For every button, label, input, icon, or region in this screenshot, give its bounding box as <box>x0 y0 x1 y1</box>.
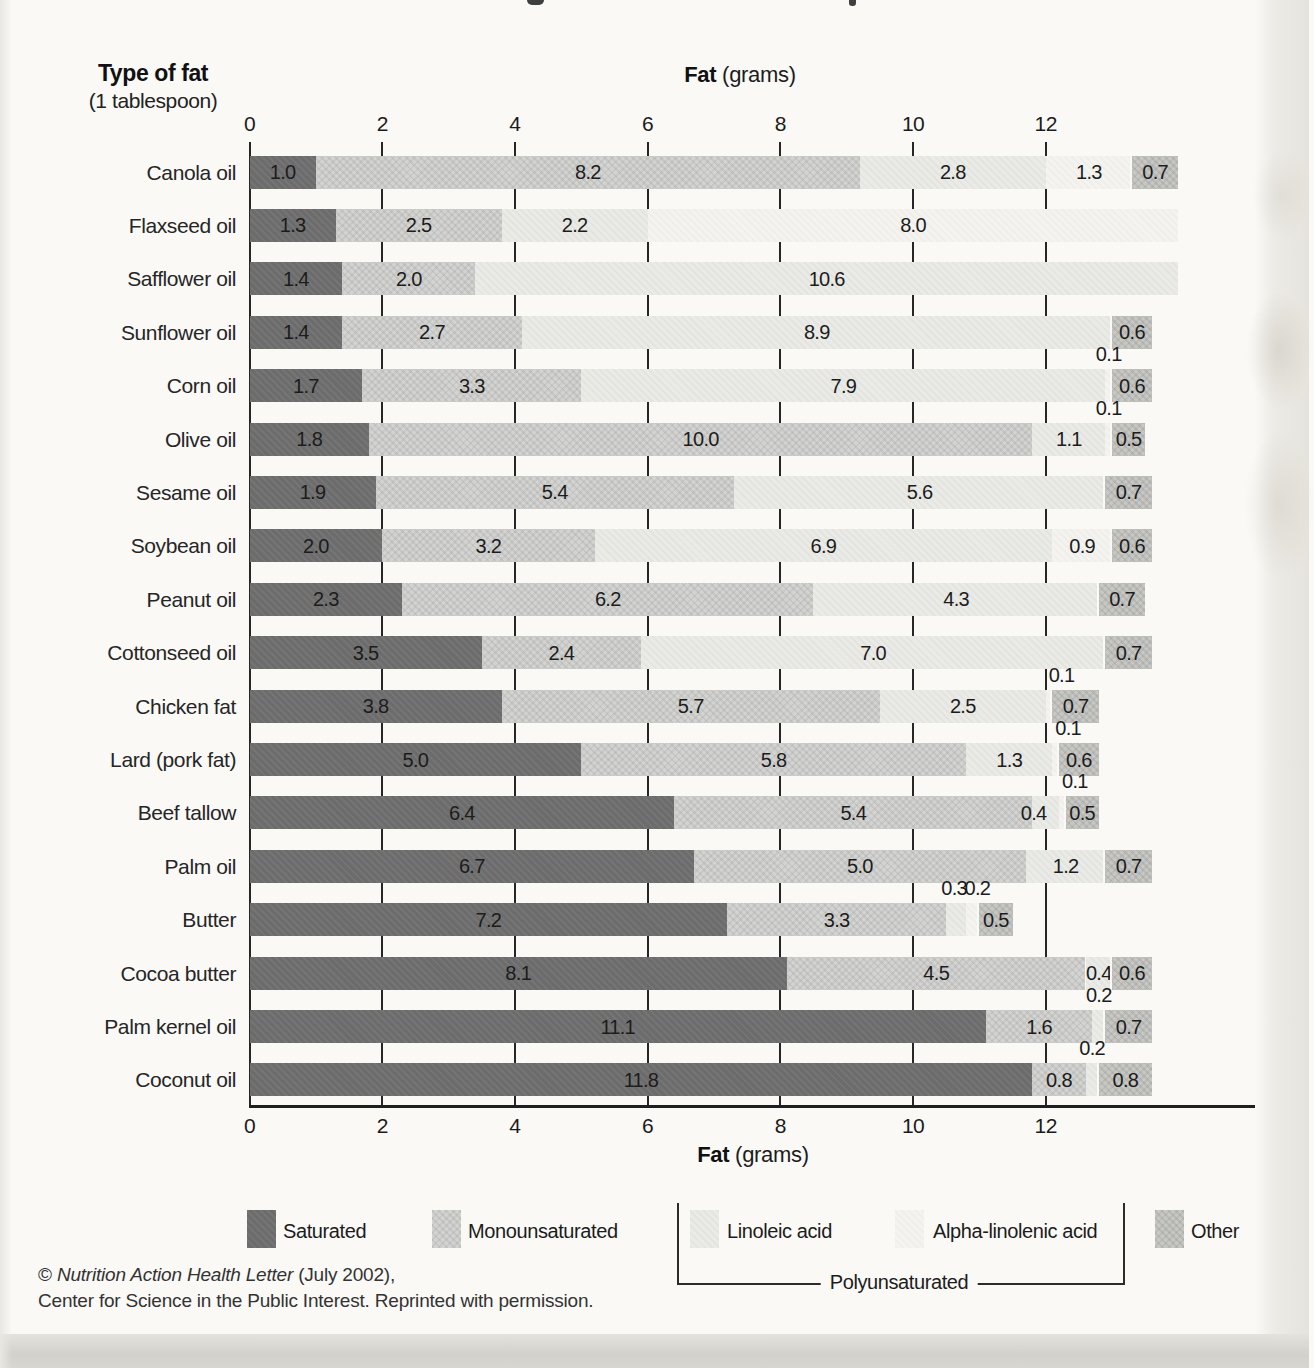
x-axis-title-bottom: Fat (grams) <box>697 1142 809 1168</box>
x-axis-title-bottom-rest: (grams) <box>729 1142 809 1167</box>
copyright-note: © Nutrition Action Health Letter (July 2… <box>38 1262 593 1314</box>
segment-value-label: 5.0 <box>847 855 873 878</box>
segment-value-label-above: 0.1 <box>1062 770 1088 793</box>
segment-value-label: 7.0 <box>860 641 886 664</box>
segment-value-label: 0.4 <box>1086 962 1112 985</box>
category-label: Cocoa butter <box>26 957 236 990</box>
segment-value-label: 6.2 <box>595 588 621 611</box>
segment-value-label-above: 0.1 <box>1096 343 1122 366</box>
legend-swatch-other <box>1155 1210 1184 1248</box>
category-label: Palm oil <box>26 850 236 883</box>
segment-value-label: 8.2 <box>575 161 601 184</box>
segment-value-label: 1.0 <box>270 161 296 184</box>
segment-value-label: 2.8 <box>940 161 966 184</box>
segment-value-label: 6.7 <box>459 855 485 878</box>
segment-value-label: 1.4 <box>283 267 309 290</box>
segment-value-label: 1.4 <box>283 321 309 344</box>
segment-value-label: 3.3 <box>459 374 485 397</box>
bar-segment-ala <box>1046 690 1053 723</box>
legend-label-monounsaturated: Monounsaturated <box>468 1220 618 1243</box>
segment-value-label: 0.9 <box>1069 534 1095 557</box>
category-label: Sunflower oil <box>26 316 236 349</box>
segment-value-label: 3.3 <box>824 908 850 931</box>
segment-value-label: 2.7 <box>419 321 445 344</box>
bar-row: 6.45.40.40.50.1 <box>250 796 1190 829</box>
category-label: Coconut oil <box>26 1063 236 1096</box>
bar-segment-ala <box>966 903 979 936</box>
segment-value-label: 3.8 <box>363 695 389 718</box>
copyright-line2: Center for Science in the Public Interes… <box>38 1288 593 1314</box>
copyright-symbol: © <box>38 1264 57 1285</box>
segment-value-label: 7.9 <box>830 374 856 397</box>
segment-value-label: 5.0 <box>403 748 429 771</box>
bar-segment-la <box>946 903 966 936</box>
bar-row: 6.75.01.20.7 <box>250 850 1190 883</box>
axis-tick-label: 12 <box>1035 1114 1057 1138</box>
bar-row: 1.08.22.81.30.7 <box>250 156 1190 189</box>
segment-value-label: 4.3 <box>943 588 969 611</box>
polyunsaturated-label: Polyunsaturated <box>821 1271 978 1294</box>
segment-value-label: 0.6 <box>1119 962 1145 985</box>
page-scan-right-band <box>1255 0 1309 1368</box>
segment-value-label: 1.3 <box>280 214 306 237</box>
x-axis-title-top-rest: (grams) <box>716 62 796 87</box>
x-axis-title-top-bold: Fat <box>684 62 716 87</box>
axis-tick-label: 8 <box>775 112 786 136</box>
bar-segment-ala <box>1105 423 1112 456</box>
segment-value-label-above: 0.2 <box>1079 1037 1105 1060</box>
segment-value-label: 5.4 <box>542 481 568 504</box>
bar-row: 1.810.01.10.50.1 <box>250 423 1190 456</box>
segment-value-label-above: 0.3 <box>941 877 967 900</box>
category-label: Sesame oil <box>26 476 236 509</box>
segment-value-label: 0.7 <box>1142 161 1168 184</box>
category-label: Lard (pork fat) <box>26 743 236 776</box>
x-axis-title-top: Fat (grams) <box>684 62 796 88</box>
segment-value-label: 1.7 <box>293 374 319 397</box>
legend-label-other: Other <box>1191 1220 1239 1243</box>
segment-value-label: 2.5 <box>406 214 432 237</box>
segment-value-label: 5.7 <box>678 695 704 718</box>
axis-tick-label: 6 <box>642 1114 653 1138</box>
bar-row: 1.73.37.90.60.1 <box>250 369 1190 402</box>
segment-value-label: 2.2 <box>562 214 588 237</box>
category-label: Butter <box>26 903 236 936</box>
legend-label-saturated: Saturated <box>283 1220 366 1243</box>
segment-value-label: 2.3 <box>313 588 339 611</box>
category-label: Beef tallow <box>26 796 236 829</box>
publication-date: (July 2002), <box>293 1264 395 1285</box>
segment-value-label: 8.9 <box>804 321 830 344</box>
copyright-line1: © Nutrition Action Health Letter (July 2… <box>38 1262 593 1288</box>
segment-value-label: 0.5 <box>1116 428 1142 451</box>
y-axis-title-main: Type of fat <box>58 60 248 87</box>
segment-value-label: 0.5 <box>1069 801 1095 824</box>
bar-row: 8.14.50.40.6 <box>250 957 1190 990</box>
segment-value-label: 6.4 <box>449 801 475 824</box>
axis-tick-label: 8 <box>775 1114 786 1138</box>
axis-tick-label: 2 <box>377 1114 388 1138</box>
bar-row: 2.03.26.90.90.6 <box>250 529 1190 562</box>
bar-row: 3.85.72.50.70.1 <box>250 690 1190 723</box>
category-label: Flaxseed oil <box>26 209 236 242</box>
bar-segment-ala <box>1052 743 1059 776</box>
bar-row: 1.42.010.6 <box>250 262 1190 295</box>
category-label: Cottonseed oil <box>26 636 236 669</box>
segment-value-label: 0.6 <box>1119 534 1145 557</box>
bottom-axis-line <box>249 1105 1255 1108</box>
segment-value-label: 5.8 <box>761 748 787 771</box>
segment-value-label: 0.6 <box>1119 321 1145 344</box>
segment-value-label: 5.6 <box>907 481 933 504</box>
segment-value-label: 1.3 <box>996 748 1022 771</box>
segment-value-label: 0.7 <box>1116 481 1142 504</box>
segment-value-label: 0.6 <box>1066 748 1092 771</box>
cropped-text-fragment <box>527 0 544 5</box>
x-axis-title-bottom-bold: Fat <box>697 1142 729 1167</box>
category-label: Corn oil <box>26 369 236 402</box>
y-axis-title-sub: (1 tablespoon) <box>58 87 248 114</box>
segment-value-label: 0.6 <box>1119 374 1145 397</box>
bar-row: 7.23.30.50.30.2 <box>250 903 1190 936</box>
bar-segment-ala <box>1059 796 1066 829</box>
bar-row: 5.05.81.30.60.1 <box>250 743 1190 776</box>
segment-value-label-above: 0.2 <box>965 877 991 900</box>
segment-value-label-above: 0.1 <box>1049 664 1075 687</box>
